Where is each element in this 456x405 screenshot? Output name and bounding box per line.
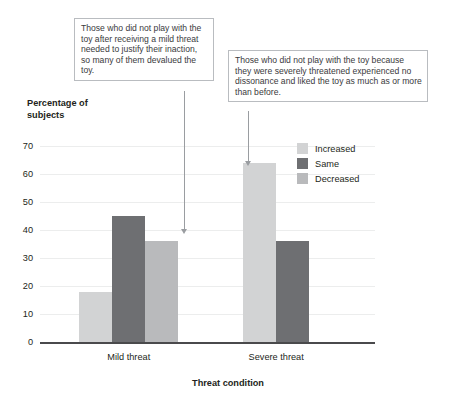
bar-mild-threat-same — [112, 216, 145, 342]
y-axis-tick-label: 60 — [23, 169, 33, 179]
legend-swatch-icon — [297, 158, 308, 169]
legend-label: Same — [315, 159, 339, 169]
y-axis-tick-label: 70 — [23, 141, 33, 151]
legend-item-same: Same — [297, 156, 359, 171]
y-axis-tick-label: 0 — [28, 337, 33, 347]
y-axis-title: Percentage of subjects — [27, 98, 88, 121]
legend-swatch-icon — [297, 143, 308, 154]
legend-swatch-icon — [297, 173, 308, 184]
bar-severe-threat-increased — [243, 163, 276, 342]
legend-label: Decreased — [315, 174, 359, 184]
legend-item-increased: Increased — [297, 141, 359, 156]
legend-item-decreased: Decreased — [297, 171, 359, 186]
y-axis-tick-label: 10 — [23, 309, 33, 319]
annotation-callout-mild: Those who did not play with the toy afte… — [74, 18, 214, 81]
gridline — [40, 258, 375, 259]
gridline — [40, 286, 375, 287]
x-axis-tick-label: Severe threat — [226, 352, 326, 362]
annotation-arrow-icon-severe — [245, 161, 251, 166]
x-axis-title: Threat condition — [0, 378, 456, 388]
annotation-arrow-icon-mild — [181, 229, 187, 234]
y-axis-tick-label: 40 — [23, 225, 33, 235]
legend-label: Increased — [315, 144, 355, 154]
chart-canvas: Those who did not play with the toy afte… — [0, 0, 456, 405]
bar-severe-threat-same — [276, 241, 309, 342]
y-axis-tick-label: 30 — [23, 253, 33, 263]
annotation-callout-severe: Those who did not play with the toy beca… — [228, 50, 428, 102]
bar-mild-threat-increased — [79, 292, 112, 342]
x-axis-baseline — [40, 342, 375, 344]
gridline — [40, 202, 375, 203]
y-axis-tick-label: 20 — [23, 281, 33, 291]
y-axis-tick-label: 50 — [23, 197, 33, 207]
gridline — [40, 230, 375, 231]
x-axis-tick-label: Mild threat — [79, 352, 179, 362]
annotation-leader-line-severe — [248, 111, 249, 164]
annotation-leader-line-mild — [184, 91, 185, 231]
legend: IncreasedSameDecreased — [297, 141, 359, 186]
bar-mild-threat-decreased — [145, 241, 178, 342]
